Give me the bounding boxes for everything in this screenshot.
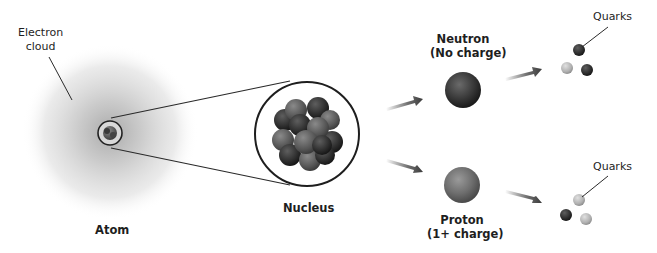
arrow-to-neutron-quarks xyxy=(505,67,542,81)
arrow-to-neutron xyxy=(386,96,423,111)
label-nucleus: Nucleus xyxy=(283,201,334,215)
label-electron-cloud-line1: Electron xyxy=(18,26,63,40)
quarks-top-leader-line xyxy=(582,27,608,47)
neutron-sphere xyxy=(445,72,481,108)
label-quarks-top: Quarks xyxy=(593,10,632,24)
atom-structure-diagram xyxy=(0,0,657,253)
label-proton-line1: Proton xyxy=(427,213,497,227)
nucleus-magnified xyxy=(255,82,359,186)
label-neutron-line2: (No charge) xyxy=(430,46,496,60)
label-proton: Proton (1+ charge) xyxy=(427,213,497,241)
label-atom: Atom xyxy=(95,223,129,237)
arrow-to-proton xyxy=(386,159,423,173)
label-proton-line2: (1+ charge) xyxy=(427,227,497,241)
atom-nucleus-highlight xyxy=(98,121,122,145)
label-neutron-line1: Neutron xyxy=(430,32,496,46)
label-electron-cloud: Electron cloud xyxy=(18,26,63,54)
quarks-bottom-leader-line xyxy=(582,176,608,197)
label-quarks-bottom: Quarks xyxy=(593,160,632,174)
proton-quarks xyxy=(560,194,592,225)
neutron-quarks xyxy=(561,44,593,76)
label-electron-cloud-line2: cloud xyxy=(18,40,63,54)
arrow-to-proton-quarks xyxy=(505,190,542,203)
proton-sphere xyxy=(444,167,480,203)
label-neutron: Neutron (No charge) xyxy=(430,32,496,60)
